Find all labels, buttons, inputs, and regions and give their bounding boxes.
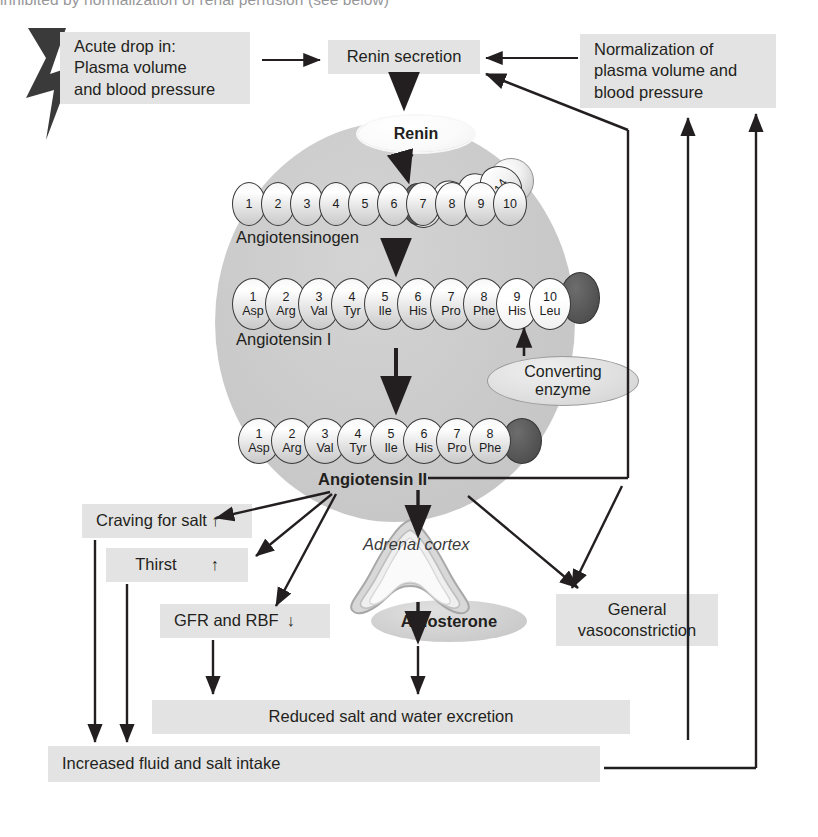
label-adrenal-cortex: Adrenal cortex bbox=[363, 535, 469, 554]
normalization-line-3: blood pressure bbox=[594, 82, 703, 103]
residue-amino-acid: Phe bbox=[479, 442, 501, 455]
general-vasoconstriction-line-2: vasoconstriction bbox=[578, 620, 696, 641]
residue-amino-acid: Ile bbox=[378, 305, 391, 318]
gfr-rbf-label: GFR and RBF bbox=[174, 610, 279, 631]
residue-amino-acid: Asp bbox=[248, 442, 270, 455]
residue-amino-acid: Ile bbox=[384, 442, 397, 455]
residue-number: 6 bbox=[391, 198, 398, 211]
residue-amino-acid: Pro bbox=[447, 442, 466, 455]
acute-drop-line-2: Plasma volume bbox=[74, 57, 187, 78]
residue-amino-acid: Arg bbox=[282, 442, 301, 455]
acute-drop-line-3: and blood pressure bbox=[74, 79, 215, 100]
residue-amino-acid: Arg bbox=[276, 305, 295, 318]
oval-renin[interactable]: Renin bbox=[358, 116, 474, 152]
residue-number: 2 bbox=[283, 291, 290, 304]
residue-amino-acid: His bbox=[508, 305, 526, 318]
label-angiotensin-i: Angiotensin I bbox=[236, 330, 331, 349]
box-gfr-rbf[interactable]: GFR and RBF ↓ bbox=[160, 604, 330, 638]
residue-number: 4 bbox=[355, 428, 362, 441]
residue-number: 10 bbox=[543, 291, 557, 304]
raas-diagram: inhibited by normalization of renal perf… bbox=[0, 0, 818, 837]
residue-number: 7 bbox=[448, 291, 455, 304]
box-craving-for-salt[interactable]: Craving for salt ↑ bbox=[82, 504, 252, 538]
normalization-line-1: Normalization of bbox=[594, 39, 713, 60]
residue-number: 4 bbox=[349, 291, 356, 304]
residue-amino-acid: Leu bbox=[540, 305, 561, 318]
renin-secretion-label: Renin secretion bbox=[347, 46, 462, 67]
residue-number: 9 bbox=[478, 198, 485, 211]
oval-converting-enzyme[interactable]: Converting enzyme bbox=[487, 356, 639, 406]
box-reduced-excretion[interactable]: Reduced salt and water excretion bbox=[152, 700, 630, 734]
residue-number: 6 bbox=[415, 291, 422, 304]
residue-10: 10 bbox=[493, 182, 527, 226]
increased-intake-label: Increased fluid and salt intake bbox=[62, 753, 280, 774]
residue-number: 7 bbox=[454, 428, 461, 441]
residue-number: 5 bbox=[388, 428, 395, 441]
residue-number: 8 bbox=[487, 428, 494, 441]
residue-number: 1 bbox=[246, 198, 253, 211]
label-angiotensinogen: Angiotensinogen bbox=[236, 228, 359, 247]
residue-number: 10 bbox=[503, 198, 517, 211]
gfr-rbf-arrow: ↓ bbox=[287, 610, 295, 631]
box-increased-intake[interactable]: Increased fluid and salt intake bbox=[48, 746, 600, 782]
residue-8-Phe: 8Phe bbox=[469, 418, 511, 464]
thirst-arrow: ↑ bbox=[211, 554, 219, 575]
normalization-line-2: plasma volume and bbox=[594, 60, 737, 81]
residue-amino-acid: Val bbox=[316, 442, 333, 455]
residue-amino-acid: Asp bbox=[242, 305, 264, 318]
truncated-header-text: inhibited by normalization of renal perf… bbox=[0, 0, 818, 11]
aldosterone-label: Aldosterone bbox=[401, 612, 497, 631]
residue-10-Leu: 10Leu bbox=[529, 278, 571, 330]
residue-number: 5 bbox=[382, 291, 389, 304]
residue-amino-acid: Tyr bbox=[349, 442, 366, 455]
label-angiotensin-ii: Angiotensin II bbox=[318, 470, 427, 489]
residue-number: 8 bbox=[449, 198, 456, 211]
box-general-vasoconstriction[interactable]: General vasoconstriction bbox=[556, 594, 718, 646]
box-normalization[interactable]: Normalization of plasma volume and blood… bbox=[580, 34, 776, 108]
residue-amino-acid: His bbox=[409, 305, 427, 318]
residue-amino-acid: Phe bbox=[473, 305, 495, 318]
residue-number: 8 bbox=[481, 291, 488, 304]
craving-for-salt-label: Craving for salt bbox=[96, 510, 207, 531]
craving-for-salt-arrow: ↑ bbox=[211, 510, 219, 531]
residue-amino-acid: Pro bbox=[441, 305, 460, 318]
residue-number: 3 bbox=[304, 198, 311, 211]
general-vasoconstriction-line-1: General bbox=[608, 599, 667, 620]
residue-number: 9 bbox=[514, 291, 521, 304]
residue-amino-acid: Tyr bbox=[343, 305, 360, 318]
box-renin-secretion[interactable]: Renin secretion bbox=[328, 40, 480, 74]
converting-enzyme-line-1: Converting bbox=[524, 363, 601, 381]
residue-number: 5 bbox=[362, 198, 369, 211]
box-thirst[interactable]: Thirst ↑ bbox=[106, 548, 248, 582]
residue-number: 4 bbox=[333, 198, 340, 211]
converting-enzyme-line-2: enzyme bbox=[535, 381, 591, 399]
residue-number: 7 bbox=[420, 198, 427, 211]
residue-number: 6 bbox=[421, 428, 428, 441]
acute-drop-line-1: Acute drop in: bbox=[74, 36, 176, 57]
reduced-excretion-label: Reduced salt and water excretion bbox=[269, 706, 514, 727]
residue-number: 2 bbox=[289, 428, 296, 441]
box-acute-drop[interactable]: Acute drop in: Plasma volume and blood p… bbox=[60, 32, 250, 104]
residue-number: 2 bbox=[275, 198, 282, 211]
renin-label: Renin bbox=[394, 125, 438, 143]
residue-number: 1 bbox=[250, 291, 257, 304]
residue-number: 1 bbox=[256, 428, 263, 441]
residue-number: 3 bbox=[316, 291, 323, 304]
residue-amino-acid: His bbox=[415, 442, 433, 455]
oval-aldosterone[interactable]: Aldosterone bbox=[371, 600, 527, 642]
residue-amino-acid: Val bbox=[310, 305, 327, 318]
residue-number: 3 bbox=[322, 428, 329, 441]
thirst-label: Thirst bbox=[135, 554, 176, 575]
